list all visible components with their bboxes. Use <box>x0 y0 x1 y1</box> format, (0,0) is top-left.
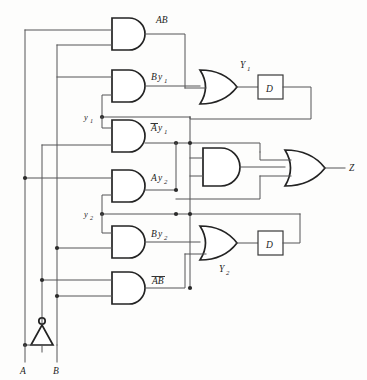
junction-b-and5 <box>55 246 59 250</box>
junction-a-and4 <box>23 176 27 180</box>
or-gate-z[interactable] <box>285 150 325 186</box>
junction-feedback-1 <box>188 141 192 145</box>
junction-nota-and6 <box>40 278 44 282</box>
label-b-input: B <box>53 366 59 376</box>
label-nay1-y: y <box>157 123 163 133</box>
and-gate-middle[interactable] <box>203 148 240 186</box>
wire-y2-to-and5 <box>102 214 112 233</box>
and-gate-nota-y1[interactable] <box>112 120 145 152</box>
label-y2-node-sub: 2 <box>90 214 93 221</box>
label-nay1-sub: 1 <box>164 128 167 135</box>
label-Y1-sub: 1 <box>247 65 250 72</box>
wire-y1-to-and2 <box>102 95 112 117</box>
junction-and4-out <box>174 188 178 192</box>
wire-and6-out <box>145 254 185 288</box>
label-d2: D <box>265 240 273 250</box>
label-by2-sub: 2 <box>164 234 168 241</box>
label-d1: D <box>265 84 273 94</box>
label-Y1: Y <box>240 60 247 70</box>
not-gate-a[interactable] <box>31 325 53 345</box>
label-y1-node-sub: 1 <box>90 117 93 124</box>
junction-b-and6 <box>55 294 59 298</box>
junction-feedback-3 <box>188 286 192 290</box>
label-by1-sub: 1 <box>164 77 167 84</box>
or-gate-y1[interactable] <box>200 70 237 104</box>
wire-y2-to-and4 <box>102 195 112 214</box>
label-by2-y: y <box>157 229 163 239</box>
logic-circuit-diagram: AB B y 1 y 1 A y 1 A y 2 y 2 B y 2 AB <box>0 0 367 380</box>
label-a-input: A <box>19 366 26 376</box>
label-by2-b: B <box>151 229 157 239</box>
junction-feedback-2 <box>188 212 192 216</box>
label-ab: AB <box>155 15 168 25</box>
label-ay2-y: y <box>157 173 163 183</box>
and-gate-a-y2[interactable] <box>112 170 145 202</box>
label-ay2-sub: 2 <box>164 178 168 185</box>
junction-y2-cross <box>174 212 178 216</box>
label-z-output: Z <box>349 163 355 173</box>
label-ay2-a: A <box>150 173 157 183</box>
label-y2-node: y <box>83 210 88 219</box>
label-y1-node: y <box>83 113 88 122</box>
or-gate-y2[interactable] <box>200 226 237 260</box>
label-by1-b: B <box>151 72 157 82</box>
and-gate-b-y2[interactable] <box>112 226 145 258</box>
label-by1-y: y <box>157 72 163 82</box>
wire-y1-to-and3 <box>102 117 112 128</box>
label-nay1-a: A <box>150 123 157 133</box>
and-gate-ab[interactable] <box>112 18 145 50</box>
label-nab: AB <box>151 276 164 286</box>
label-Y2: Y <box>219 264 226 274</box>
label-Y2-sub: 2 <box>226 269 230 276</box>
circuit-canvas: AB B y 1 y 1 A y 1 A y 2 y 2 B y 2 AB <box>0 0 367 380</box>
and-gate-by1[interactable] <box>112 70 145 102</box>
and-gate-nota-notb[interactable] <box>112 272 145 304</box>
wire-d2-feedback <box>283 214 300 243</box>
